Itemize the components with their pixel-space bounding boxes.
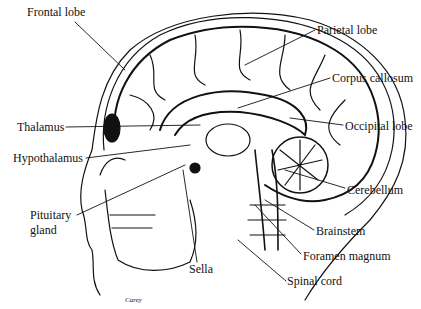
brain-diagram: Carey Frontal lobe Parietal lobe Corpus …: [0, 0, 421, 309]
label-corpus-callosum: Corpus callosum: [332, 72, 413, 85]
label-parietal-lobe: Parietal lobe: [317, 24, 377, 37]
corpus-callosum-shape: [160, 91, 306, 135]
label-cerebellum: Cerebellum: [347, 184, 403, 197]
label-pituitary-line1: Pituitary: [30, 209, 71, 222]
label-frontal-lobe: Frontal lobe: [27, 6, 85, 19]
label-occipital-lobe: Occipital lobe: [345, 120, 413, 133]
jaw-outline: [105, 190, 196, 270]
label-brainstem: Brainstem: [316, 225, 365, 238]
label-pituitary-line2: gland: [30, 224, 57, 237]
label-foramen-magnum: Foramen magnum: [303, 250, 391, 263]
label-spinal-cord: Spinal cord: [287, 275, 342, 288]
label-thalamus: Thalamus: [17, 121, 64, 134]
artist-signature: Carey: [125, 296, 143, 304]
label-hypothalamus: Hypothalamus: [13, 152, 83, 165]
label-sella: Sella: [189, 263, 213, 276]
